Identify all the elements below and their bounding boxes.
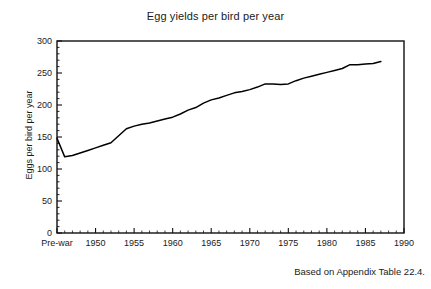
x-tick-label: 1965 xyxy=(201,238,221,248)
x-tick-label: 1975 xyxy=(278,238,298,248)
y-tick-label: 250 xyxy=(37,68,52,78)
data-line xyxy=(57,61,381,156)
x-tick-label: 1955 xyxy=(124,238,144,248)
x-tick-label: 1985 xyxy=(355,238,375,248)
x-tick-label: 1990 xyxy=(394,238,414,248)
y-tick-label: 0 xyxy=(47,228,52,238)
y-tick-label: 150 xyxy=(37,132,52,142)
x-tick-label: 1950 xyxy=(86,238,106,248)
y-tick-label: 100 xyxy=(37,164,52,174)
y-tick-label: 50 xyxy=(42,196,52,206)
x-tick-label: Pre-war xyxy=(41,238,73,248)
plot-area: 050100150200250300Pre-war195019551960196… xyxy=(0,0,431,289)
source-note: Based on Appendix Table 22.4. xyxy=(294,266,425,277)
chart-figure: Egg yields per bird per year Eggs per bi… xyxy=(0,0,431,289)
y-tick-label: 300 xyxy=(37,36,52,46)
data-series-layer xyxy=(57,61,381,156)
x-tick-label: 1960 xyxy=(163,238,183,248)
plot-frame xyxy=(57,41,404,233)
x-tick-label: 1980 xyxy=(317,238,337,248)
tick-label-layer: 050100150200250300Pre-war195019551960196… xyxy=(37,36,414,248)
y-tick-label: 200 xyxy=(37,100,52,110)
axis-layer xyxy=(57,41,404,233)
x-tick-label: 1970 xyxy=(240,238,260,248)
